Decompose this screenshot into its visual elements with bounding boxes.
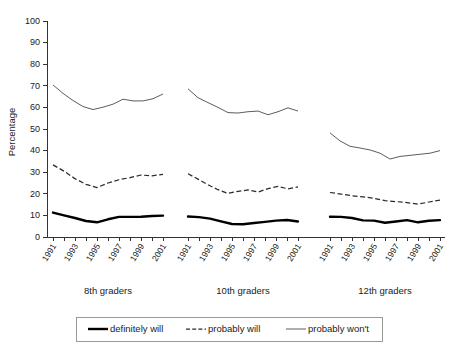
y-tick-label: 90	[30, 37, 40, 47]
group-label-8th-graders: 8th graders	[84, 285, 132, 296]
group-label-12th-graders: 12th graders	[358, 285, 412, 296]
series-line-probably-will	[188, 174, 298, 194]
y-tick-label: 30	[30, 167, 40, 177]
panel-group-labels: 8th graders10th graders12th graders	[84, 285, 412, 296]
x-tick-label: 1993	[339, 242, 358, 264]
x-tick-label: 2001	[285, 242, 304, 264]
y-tick-label: 80	[30, 59, 40, 69]
y-tick-labels: 0102030405060708090100	[25, 16, 40, 242]
series-line-definitely-will	[330, 217, 440, 223]
series-line-probably-won-t	[53, 85, 163, 110]
legend-label-probably-will: probably will	[208, 323, 260, 334]
x-tick-label: 1993	[62, 242, 81, 264]
legend-label-definitely-will: definitely will	[110, 323, 163, 334]
x-tick-label: 1999	[263, 242, 282, 264]
series-line-probably-will	[330, 193, 440, 205]
series-layer	[53, 85, 440, 224]
x-tick-label: 2001	[150, 242, 169, 264]
series-line-probably-will	[53, 165, 163, 188]
x-tick-label: 1991	[40, 242, 59, 264]
legend-items: definitely willprobably willprobably won…	[88, 323, 369, 334]
x-tick-marks	[53, 237, 440, 241]
x-tick-label: 1997	[106, 242, 125, 264]
grade-expectation-line-chart: 0102030405060708090100 Percentage 199119…	[0, 0, 458, 353]
y-tick-label: 10	[30, 210, 40, 220]
x-tick-labels: 1991199319951997199920011991199319951997…	[40, 242, 446, 264]
y-tick-label: 100	[25, 16, 40, 26]
x-tick-label: 1991	[317, 242, 336, 264]
y-tick-marks	[43, 21, 47, 237]
x-tick-label: 2001	[427, 242, 446, 264]
series-line-definitely-will	[188, 216, 298, 224]
x-tick-label: 1995	[219, 242, 238, 264]
x-axis: 1991199319951997199920011991199319951997…	[40, 237, 446, 263]
chart-container: 0102030405060708090100 Percentage 199119…	[0, 0, 458, 353]
legend: definitely willprobably willprobably won…	[76, 317, 382, 341]
legend-label-probably-won-t: probably won't	[308, 323, 369, 334]
y-tick-label: 70	[30, 81, 40, 91]
x-tick-label: 1999	[405, 242, 424, 264]
x-tick-label: 1999	[128, 242, 147, 264]
y-tick-label: 40	[30, 145, 40, 155]
x-tick-label: 1991	[175, 242, 194, 264]
x-tick-label: 1995	[361, 242, 380, 264]
x-tick-label: 1993	[197, 242, 216, 264]
y-tick-label: 20	[30, 189, 40, 199]
y-tick-label: 60	[30, 102, 40, 112]
group-label-10th-graders: 10th graders	[216, 285, 270, 296]
y-axis-title: Percentage	[6, 108, 17, 157]
y-tick-label: 50	[30, 124, 40, 134]
x-tick-label: 1995	[84, 242, 103, 264]
series-line-definitely-will	[53, 213, 163, 223]
series-line-probably-won-t	[330, 133, 440, 159]
series-line-probably-won-t	[188, 89, 298, 115]
y-tick-label: 0	[35, 232, 40, 242]
x-tick-label: 1997	[241, 242, 260, 264]
y-axis: 0102030405060708090100	[25, 16, 47, 242]
x-tick-label: 1997	[383, 242, 402, 264]
